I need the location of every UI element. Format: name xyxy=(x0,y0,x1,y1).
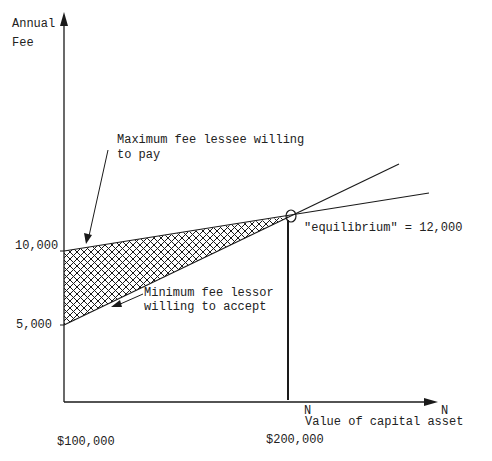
max-fee-annotation-line2: to pay xyxy=(117,148,160,162)
y-axis-label-line2: Fee xyxy=(12,36,34,50)
x-tick-label-200000: $200,000 xyxy=(266,433,324,447)
min-fee-annotation-line2: willing to accept xyxy=(144,300,266,314)
x-axis-label: Value of capital asset xyxy=(305,415,463,429)
x-axis-arrow-icon xyxy=(424,398,438,406)
y-axis-arrow-icon xyxy=(60,12,68,26)
y-tick-label-5000: 5,000 xyxy=(16,318,52,332)
max-fee-pointer xyxy=(89,150,108,236)
max-fee-arrow-icon xyxy=(84,233,92,244)
equilibrium-annotation: "equilibrium" = 12,000 xyxy=(304,221,462,235)
min-fee-annotation-line1: Minimum fee lessor xyxy=(144,286,274,300)
y-tick-label-10000: 10,000 xyxy=(15,239,58,253)
x-tick-label-100000: $100,000 xyxy=(57,435,115,449)
y-axis-label-line1: Annual xyxy=(12,17,55,31)
max-fee-annotation-line1: Maximum fee lessee willing xyxy=(117,133,304,147)
